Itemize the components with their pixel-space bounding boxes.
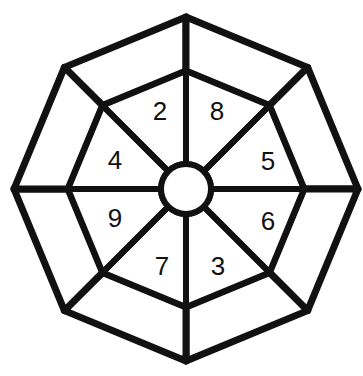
digit-label-8: 8	[210, 96, 224, 126]
digit-label-7: 7	[155, 251, 169, 281]
digit-label-9: 9	[108, 203, 122, 233]
wheel-diagram: 28563794	[0, 0, 363, 376]
hub-circle[interactable]	[161, 164, 211, 214]
digit-label-2: 2	[153, 96, 167, 126]
digit-label-3: 3	[211, 251, 225, 281]
wheel-puzzle-figure: 28563794	[0, 0, 363, 376]
digit-label-6: 6	[261, 206, 275, 236]
digit-label-5: 5	[261, 146, 275, 176]
hub-group	[161, 164, 211, 214]
digit-label-4: 4	[108, 145, 122, 175]
